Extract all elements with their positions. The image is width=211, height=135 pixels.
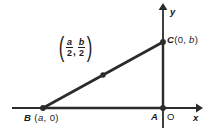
vertex-point-c	[160, 39, 166, 45]
label-y-axis: y	[170, 7, 175, 17]
coordinate-geometry-figure: B (a, 0) C(0, b) A O x y ( a 2 , b 2 )	[0, 0, 211, 135]
midpoint-close-paren: )	[87, 37, 93, 58]
midpoint-x-fraction: a 2	[66, 38, 73, 58]
label-midpoint-coordinates: ( a 2 , b 2 )	[57, 37, 94, 58]
label-origin: O	[167, 112, 174, 122]
label-point-a: A	[151, 112, 158, 122]
midpoint-y-numerator: b	[78, 38, 86, 48]
midpoint-point-bc	[100, 72, 105, 77]
midpoint-open-paren: (	[59, 37, 65, 58]
label-point-b-coords: (a, 0)	[31, 112, 59, 123]
y-axis-arrow-icon	[159, 3, 168, 10]
midpoint-y-denominator: 2	[78, 48, 85, 58]
label-point-c: C(0, b)	[167, 35, 198, 45]
label-x-axis: x	[193, 113, 198, 123]
midpoint-y-fraction: b 2	[78, 38, 86, 58]
vertex-point-a-origin	[160, 105, 166, 111]
midpoint-x-denominator: 2	[66, 48, 73, 58]
midpoint-comma: ,	[73, 47, 78, 57]
midpoint-x-numerator: a	[66, 38, 73, 48]
vertex-point-b	[40, 105, 46, 111]
label-point-b: B (a, 0)	[24, 113, 59, 123]
